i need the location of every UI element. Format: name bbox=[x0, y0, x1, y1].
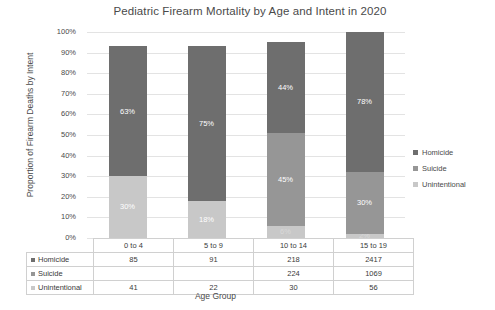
y-axis-tick-70%: 70% bbox=[44, 89, 76, 98]
legend-item-unintentional[interactable]: Unintentional bbox=[413, 180, 466, 189]
chart-title: Pediatric Firearm Mortality by Age and I… bbox=[60, 5, 440, 17]
legend-label: Homicide bbox=[422, 148, 453, 157]
table-row-label: Homicide bbox=[38, 255, 69, 264]
bar-segment-label: 78% bbox=[357, 98, 372, 106]
y-axis-tick-60%: 60% bbox=[44, 109, 76, 118]
legend-label: Suicide bbox=[422, 164, 447, 173]
bar-10-to-14[interactable]: 6%45%44% bbox=[267, 32, 305, 238]
table-cell bbox=[174, 267, 254, 281]
y-axis-tick-20%: 20% bbox=[44, 192, 76, 201]
data-table: 0 to 45 to 910 to 1415 to 19Homicide8591… bbox=[26, 238, 414, 295]
table-cell: 1069 bbox=[334, 267, 414, 281]
bar-segment-unintentional[interactable]: 6% bbox=[267, 226, 305, 238]
bar-segment-suicide[interactable]: 30% bbox=[346, 172, 384, 234]
y-axis-title: Proportion of Firearm Deaths by Intent bbox=[25, 25, 35, 225]
legend-label: Unintentional bbox=[422, 180, 466, 189]
legend-swatch-icon bbox=[413, 182, 418, 187]
table-swatch-icon bbox=[31, 272, 35, 276]
legend-item-homicide[interactable]: Homicide bbox=[413, 148, 466, 157]
bar-segment-homicide[interactable]: 44% bbox=[267, 42, 305, 133]
table-row-header-homicide: Homicide bbox=[27, 253, 94, 267]
table-cell: 224 bbox=[254, 267, 334, 281]
table-swatch-icon bbox=[31, 286, 35, 290]
table-cell: 85 bbox=[94, 253, 174, 267]
bar-segment-label: 44% bbox=[278, 84, 293, 92]
table-cell: 218 bbox=[254, 253, 334, 267]
bar-segment-homicide[interactable]: 75% bbox=[188, 46, 226, 201]
y-axis-tick-80%: 80% bbox=[44, 68, 76, 77]
bar-segment-unintentional[interactable]: 18% bbox=[188, 201, 226, 238]
table-row-header-suicide: Suicide bbox=[27, 267, 94, 281]
x-axis-title: Age Group bbox=[26, 291, 405, 301]
chart-container: Pediatric Firearm Mortality by Age and I… bbox=[0, 0, 495, 310]
table-column-header: 5 to 9 bbox=[174, 239, 254, 253]
y-axis-tick-10%: 10% bbox=[44, 212, 76, 221]
bar-5-to-9[interactable]: 18%75% bbox=[188, 32, 226, 238]
y-axis-tick-30%: 30% bbox=[44, 171, 76, 180]
y-axis-tick-100%: 100% bbox=[44, 27, 76, 36]
table-swatch-icon bbox=[31, 258, 35, 262]
table-cell: 2417 bbox=[334, 253, 414, 267]
y-axis-tick-50%: 50% bbox=[44, 130, 76, 139]
plot-area: 30%63%18%75%6%45%44%2%30%78% bbox=[87, 32, 405, 238]
table-row: Homicide85912182417 bbox=[27, 253, 414, 267]
bar-segment-label: 18% bbox=[199, 216, 214, 224]
bar-segment-unintentional[interactable]: 30% bbox=[109, 176, 147, 238]
table-row: Suicide2241069 bbox=[27, 267, 414, 281]
bar-segment-label: 30% bbox=[120, 203, 135, 211]
bar-segment-homicide[interactable]: 63% bbox=[109, 46, 147, 176]
bar-segment-label: 63% bbox=[120, 108, 135, 116]
table-cell bbox=[94, 267, 174, 281]
y-axis-tick-40%: 40% bbox=[44, 151, 76, 160]
y-axis-tick-90%: 90% bbox=[44, 48, 76, 57]
bar-segment-label: 75% bbox=[199, 120, 214, 128]
legend-swatch-icon bbox=[413, 166, 418, 171]
bar-segment-suicide[interactable]: 45% bbox=[267, 133, 305, 226]
bar-0-to-4[interactable]: 30%63% bbox=[109, 32, 147, 238]
table-column-header: 10 to 14 bbox=[254, 239, 334, 253]
bar-15-to-19[interactable]: 2%30%78% bbox=[346, 32, 384, 238]
bar-segment-label: 45% bbox=[278, 176, 293, 184]
bar-segment-label: 6% bbox=[280, 228, 291, 236]
table-corner-cell bbox=[27, 239, 94, 253]
table-cell: 91 bbox=[174, 253, 254, 267]
legend-item-suicide[interactable]: Suicide bbox=[413, 164, 466, 173]
bar-segment-homicide[interactable]: 78% bbox=[346, 32, 384, 172]
legend-swatch-icon bbox=[413, 150, 418, 155]
table-row-label: Suicide bbox=[38, 269, 63, 278]
table-column-header: 15 to 19 bbox=[334, 239, 414, 253]
chart-legend: HomicideSuicideUnintentional bbox=[413, 148, 466, 196]
table-column-header: 0 to 4 bbox=[94, 239, 174, 253]
bar-segment-label: 30% bbox=[357, 199, 372, 207]
table-header-row: 0 to 45 to 910 to 1415 to 19 bbox=[27, 239, 414, 253]
